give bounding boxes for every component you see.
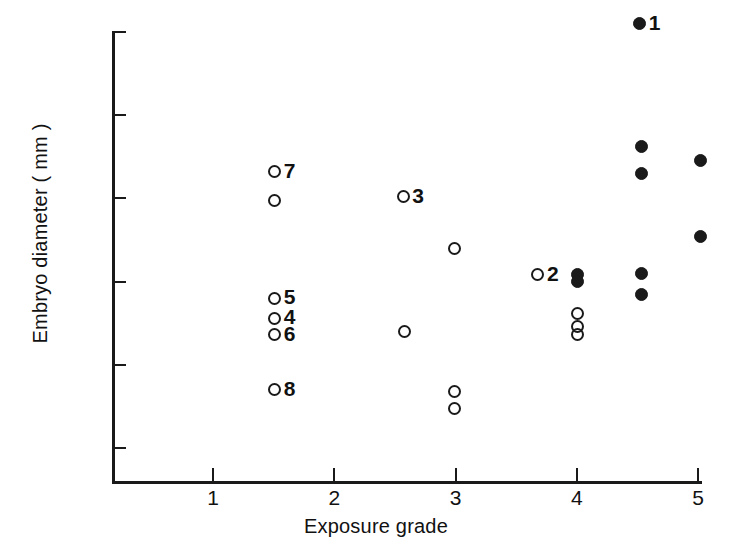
data-point: [694, 154, 707, 167]
data-point: [398, 325, 411, 338]
data-point: [635, 267, 648, 280]
data-point-label: 3: [412, 184, 424, 208]
x-tick-label: 4: [557, 486, 597, 510]
y-tick-mark: [113, 114, 126, 116]
y-tick-mark: [113, 197, 126, 199]
data-point: [633, 17, 646, 30]
y-tick-mark: [113, 364, 126, 366]
data-point-label: 6: [284, 322, 296, 346]
data-point: [268, 383, 281, 396]
data-point: [268, 328, 281, 341]
data-point: [448, 385, 461, 398]
x-tick-label: 5: [678, 486, 718, 510]
data-point: [531, 268, 544, 281]
data-point: [635, 288, 648, 301]
data-point: [448, 242, 461, 255]
y-axis-title: Embryo diameter ( mm ): [29, 34, 52, 434]
data-point: [571, 275, 584, 288]
x-tick-label: 2: [314, 486, 354, 510]
data-point: [268, 312, 281, 325]
data-point: [571, 328, 584, 341]
data-point: [268, 194, 281, 207]
y-tick-mark: [113, 31, 126, 33]
data-point: [694, 230, 707, 243]
x-tick-mark: [697, 468, 699, 482]
data-point: [635, 167, 648, 180]
x-axis-line: [112, 481, 702, 484]
data-point-label: 1: [649, 11, 661, 35]
data-point: [268, 292, 281, 305]
data-point: [448, 402, 461, 415]
x-tick-mark: [333, 468, 335, 482]
data-point: [397, 190, 410, 203]
data-point-label: 8: [284, 377, 296, 401]
data-point: [571, 307, 584, 320]
y-tick-mark: [113, 281, 126, 283]
scatter-plot-figure: 0.5000.5500.6000.6500.7000.750 12345 754…: [0, 0, 752, 544]
x-tick-label: 3: [436, 486, 476, 510]
x-tick-mark: [576, 468, 578, 482]
data-point-label: 2: [547, 262, 559, 286]
x-tick-mark: [212, 468, 214, 482]
data-point: [268, 165, 281, 178]
y-axis-line: [112, 31, 115, 484]
x-tick-label: 1: [193, 486, 233, 510]
data-point: [635, 140, 648, 153]
x-axis-title: Exposure grade: [0, 515, 752, 538]
y-tick-mark: [113, 447, 126, 449]
data-point-label: 7: [284, 159, 296, 183]
x-tick-mark: [455, 468, 457, 482]
